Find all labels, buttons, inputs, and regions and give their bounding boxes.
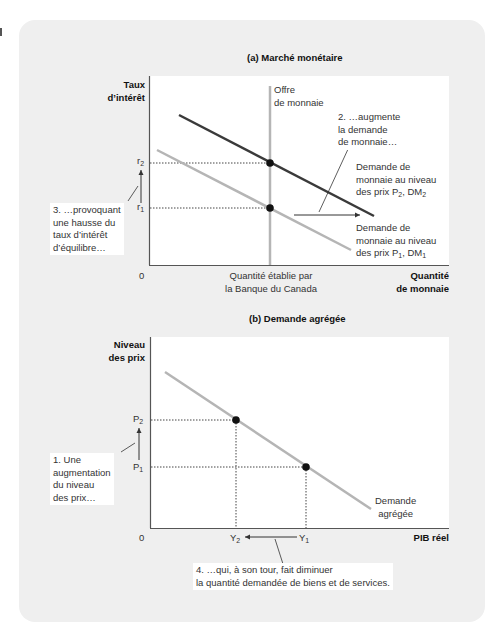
r2-tick: r2 bbox=[137, 155, 144, 168]
note4-leader bbox=[275, 539, 283, 564]
dm1-line bbox=[157, 150, 351, 250]
note-2: 2. …augmente la demande de monnaie… bbox=[335, 110, 403, 150]
chart-b-ylabel: Niveau des prix bbox=[85, 339, 145, 364]
dm2-label: Demande de monnaie au niveau des prix P2… bbox=[356, 161, 436, 199]
r1-tick: r1 bbox=[137, 201, 144, 214]
note-3: 3. …provoquant une hausse du taux d’inté… bbox=[50, 203, 124, 255]
note-1: 1. Une augmentation du niveau des prix… bbox=[50, 453, 114, 505]
chart-b-title: (b) Demande agrégée bbox=[249, 313, 346, 324]
equilibrium-r1-dot bbox=[266, 204, 274, 212]
point-y2-p2-dot bbox=[232, 416, 240, 424]
aggregate-demand-line bbox=[165, 372, 371, 509]
note3-leader bbox=[128, 186, 138, 201]
note-4: 4. …qui, à son tour, fait diminuer la qu… bbox=[193, 563, 393, 590]
supply-label: Offre de monnaie bbox=[274, 84, 324, 109]
dm1-label: Demande de monnaie au niveau des prix P1… bbox=[356, 222, 436, 260]
note1-leader bbox=[121, 443, 135, 452]
y1-tick: Y1 bbox=[299, 532, 309, 545]
p2-tick: P2 bbox=[133, 413, 143, 426]
chart-a-origin: 0 bbox=[139, 270, 144, 283]
p1-tick: P1 bbox=[133, 461, 143, 474]
chart-b-xlabel: PIB réel bbox=[400, 532, 449, 545]
equilibrium-r2-dot bbox=[266, 159, 274, 167]
note2-leader bbox=[319, 147, 349, 212]
ad-label: Demande agrégée bbox=[375, 495, 416, 520]
y2-tick: Y2 bbox=[230, 532, 240, 545]
chart-a-xlabel: Quantité de monnaie bbox=[380, 270, 449, 295]
supply-quantity-label: Quantité établie par la Banque du Canada bbox=[216, 270, 326, 295]
point-y1-p1-dot bbox=[302, 463, 310, 471]
chart-b-origin: 0 bbox=[139, 532, 144, 545]
